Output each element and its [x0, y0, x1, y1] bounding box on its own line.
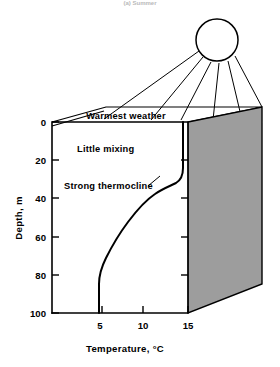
- x-axis-title: Temperature, °C: [86, 343, 164, 354]
- y-tick-label-60: 60: [35, 232, 46, 243]
- y-tick-label-80: 80: [35, 270, 46, 281]
- x-tick-label-10: 10: [138, 320, 149, 331]
- annotation-warmest-weather: Warmest weather: [86, 111, 166, 121]
- x-tick-label-5: 5: [97, 320, 103, 331]
- y-axis-title: Depth, m: [13, 196, 24, 239]
- sun-icon: [196, 19, 238, 61]
- annotation-strong-thermocline: Strong thermocline: [64, 181, 153, 191]
- slab-right-face: [188, 107, 262, 313]
- figure-canvas: (a) Summer: [0, 0, 280, 367]
- y-axis-ticks: [52, 122, 59, 313]
- x-axis-ticks: [99, 306, 188, 313]
- y-tick-label-100: 100: [30, 308, 46, 319]
- y-tick-label-20: 20: [35, 155, 46, 166]
- annotation-little-mixing: Little mixing: [77, 144, 134, 154]
- figure-caption: (a) Summer: [123, 0, 157, 6]
- thermocline-figure: (a) Summer: [0, 0, 280, 367]
- y-tick-label-0: 0: [41, 117, 46, 128]
- x-tick-label-15: 15: [183, 320, 194, 331]
- y-tick-label-40: 40: [35, 193, 46, 204]
- sun-rays-icon: [104, 51, 262, 120]
